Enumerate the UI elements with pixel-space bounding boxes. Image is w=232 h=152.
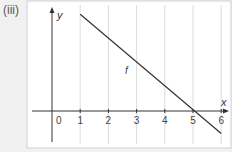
x-tick-label: 3 (134, 115, 140, 126)
x-tick-label: 6 (218, 115, 224, 126)
x-tick-label: 1 (77, 115, 83, 126)
x-tick-label: 4 (162, 115, 168, 126)
graph: y x 0 123456 f (0, 0, 232, 152)
x-tick-label: 2 (106, 115, 112, 126)
origin-label: 0 (56, 115, 62, 126)
x-tick-label: 5 (190, 115, 196, 126)
x-axis-label: x (220, 96, 227, 108)
